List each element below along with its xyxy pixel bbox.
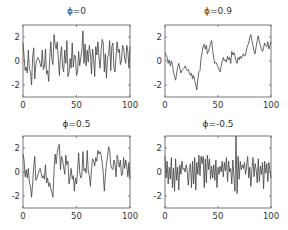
y-tick-label: 0: [157, 56, 162, 66]
panel-phi-0.9: ϕ=0.9 2 0 -2 0 50 100: [154, 6, 280, 110]
y-tick-label: 2: [15, 143, 20, 153]
x-tick-label: 0: [20, 211, 25, 221]
y-tick-label: -2: [12, 191, 20, 201]
y-tick-label: -2: [12, 80, 20, 90]
panel-title: ϕ=0: [67, 6, 86, 16]
x-tick-label: 100: [263, 100, 279, 110]
x-tick-label: 100: [122, 211, 138, 221]
axis-ticks: [165, 25, 271, 97]
y-tick-label: -2: [154, 191, 162, 201]
x-tick-label: 0: [162, 211, 167, 221]
x-tick-label: 0: [162, 100, 167, 110]
x-tick-label: 50: [213, 100, 224, 110]
panel-phi-neg-0.5: ϕ=-0.5 2 0 -2 0 50 100: [154, 119, 280, 221]
panel-title: ϕ=-0.5: [202, 119, 233, 129]
y-tick-label: 2: [157, 32, 162, 42]
figure: ϕ=0 2 0 -2 0 50 100 ϕ=0.9 2 0 -2 0 50 10…: [0, 0, 288, 230]
series-line: [165, 136, 271, 194]
x-tick-label: 100: [122, 100, 138, 110]
y-tick-label: 2: [157, 143, 162, 153]
series-line: [23, 144, 130, 197]
panel-phi-0: ϕ=0 2 0 -2 0 50 100: [12, 6, 139, 110]
panel-title: ϕ=0.5: [63, 119, 91, 129]
y-tick-label: 0: [15, 56, 20, 66]
series-line: [23, 31, 130, 85]
x-tick-label: 100: [263, 211, 279, 221]
x-tick-label: 0: [20, 100, 25, 110]
y-tick-label: 0: [15, 167, 20, 177]
y-tick-label: 0: [157, 167, 162, 177]
x-tick-label: 50: [71, 100, 82, 110]
plot-area: [165, 25, 271, 97]
x-tick-label: 50: [71, 211, 82, 221]
series-line: [165, 35, 271, 90]
panel-title: ϕ=0.9: [204, 6, 232, 16]
x-tick-label: 50: [213, 211, 224, 221]
y-tick-label: -2: [154, 80, 162, 90]
panel-phi-0.5: ϕ=0.5 2 0 -2 0 50 100: [12, 119, 139, 221]
y-tick-label: 2: [15, 32, 20, 42]
